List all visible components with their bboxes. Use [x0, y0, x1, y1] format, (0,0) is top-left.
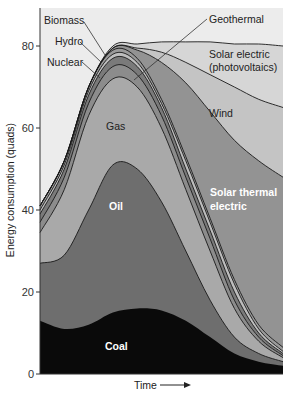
label-solar-pv-line1: Solar electric: [209, 48, 270, 60]
y-tick-40: 40: [22, 204, 34, 216]
label-gas: Gas: [106, 120, 125, 132]
arrow-right-icon: [160, 382, 191, 388]
label-geothermal: Geothermal: [209, 13, 264, 25]
y-tick-20: 20: [22, 286, 34, 298]
y-tick-0: 0: [28, 368, 34, 380]
y-ticks: 0 20 40 60 80: [22, 40, 40, 380]
label-solar-pv-line2: (photovoltaics): [209, 61, 277, 73]
label-solar-thermal-line2: electric: [210, 200, 247, 212]
label-hydro: Hydro: [55, 35, 83, 47]
y-tick-60: 60: [22, 122, 34, 134]
stacked-area-chart: 0 20 40 60 80 Energy consumption (quads)…: [0, 0, 291, 395]
x-axis-label: Time: [134, 379, 157, 391]
label-biomass: Biomass: [44, 14, 84, 26]
y-tick-80: 80: [22, 40, 34, 52]
label-nuclear: Nuclear: [47, 56, 84, 68]
label-solar-thermal-line1: Solar thermal: [210, 186, 277, 198]
label-wind: Wind: [209, 107, 233, 119]
y-axis-label: Energy consumption (quads): [4, 123, 16, 257]
label-coal: Coal: [105, 340, 128, 352]
label-oil: Oil: [109, 200, 123, 212]
